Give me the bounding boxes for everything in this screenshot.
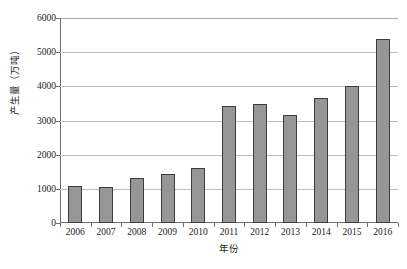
x-tick-label: 2011	[214, 226, 245, 238]
bar	[99, 187, 113, 223]
y-tick-label: 5000	[22, 47, 56, 57]
x-tick-label: 2008	[121, 226, 152, 238]
x-tick-label: 2012	[244, 226, 275, 238]
y-tick-label: 2000	[22, 150, 56, 160]
x-tick-label: 2013	[275, 226, 306, 238]
x-tick-label: 2016	[367, 226, 398, 238]
x-axis-title: 年份	[60, 243, 398, 255]
x-tick-label: 2007	[91, 226, 122, 238]
x-tick-label: 2014	[306, 226, 337, 238]
bar	[376, 39, 390, 223]
bar	[130, 178, 144, 223]
bar	[222, 106, 236, 223]
y-tick-label: 3000	[22, 116, 56, 126]
y-tick-mark	[56, 121, 60, 122]
y-tick-mark	[56, 86, 60, 87]
bar	[68, 186, 82, 223]
x-tick-mark	[398, 223, 399, 227]
x-axis-tick-labels: 2006200720082009201020112012201320142015…	[60, 226, 398, 242]
y-tick-label: 6000	[22, 13, 56, 23]
x-tick-label: 2015	[337, 226, 368, 238]
y-tick-mark	[56, 155, 60, 156]
y-tick-mark	[56, 52, 60, 53]
y-tick-mark	[56, 189, 60, 190]
x-tick-label: 2009	[152, 226, 183, 238]
bar	[161, 174, 175, 223]
y-tick-label: 0	[22, 218, 56, 228]
x-tick-label: 2006	[60, 226, 91, 238]
bar	[283, 115, 297, 223]
bar	[191, 168, 205, 223]
y-tick-mark	[56, 18, 60, 19]
plot-top-gridline	[60, 18, 398, 19]
plot-area	[60, 18, 398, 223]
x-tick-label: 2010	[183, 226, 214, 238]
y-axis-tick-labels: 0100020003000400050006000	[16, 0, 56, 269]
bar-chart-figure: 产生量（万吨） 0100020003000400050006000 200620…	[0, 0, 407, 269]
bar	[253, 104, 267, 223]
bar	[345, 86, 359, 223]
gridline	[60, 52, 398, 53]
y-tick-label: 1000	[22, 184, 56, 194]
y-tick-label: 4000	[22, 81, 56, 91]
bar	[314, 98, 328, 223]
